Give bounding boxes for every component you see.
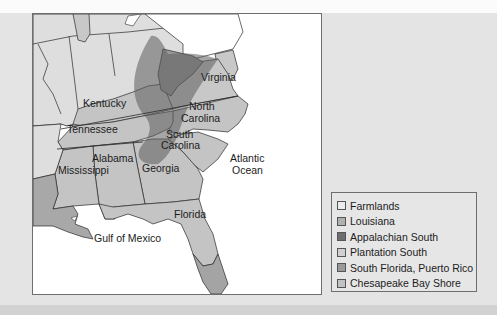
label-tennessee: Tennessee [67, 124, 118, 135]
swatch-icon [337, 263, 346, 272]
label-north-carolina-1: North [189, 101, 215, 112]
swatch-icon [337, 248, 346, 257]
legend-item-south-florida: South Florida, Puerto Rico [337, 260, 476, 276]
legend-label: Farmlands [350, 200, 400, 212]
legend-label: Plantation South [350, 246, 427, 258]
bottom-margin [0, 305, 497, 315]
swatch-icon [337, 279, 346, 288]
legend-label: Louisiana [350, 215, 395, 227]
label-gulf-of-mexico: Gulf of Mexico [94, 233, 161, 244]
label-virginia: Virginia [201, 72, 236, 83]
swatch-icon [337, 232, 346, 241]
legend-label: South Florida, Puerto Rico [350, 262, 473, 274]
label-north-carolina-2: Carolina [181, 113, 220, 124]
map-frame: Virginia Kentucky North Carolina Tenness… [32, 13, 322, 295]
swatch-icon [337, 201, 346, 210]
top-margin [0, 0, 497, 13]
label-georgia: Georgia [142, 163, 179, 174]
swatch-icon [337, 217, 346, 226]
legend-label: Appalachian South [350, 231, 438, 243]
region-map [33, 14, 321, 294]
legend-item-louisiana: Louisiana [337, 214, 476, 230]
label-atlantic: Atlantic [230, 153, 264, 164]
legend-item-chesapeake: Chesapeake Bay Shore [337, 276, 476, 292]
legend-item-farmlands: Farmlands [337, 198, 476, 214]
label-kentucky: Kentucky [83, 98, 126, 109]
label-mississippi: Mississippi [58, 165, 109, 176]
legend-item-plantation-south: Plantation South [337, 245, 476, 261]
label-florida: Florida [174, 209, 206, 220]
label-south-carolina-2: Carolina [161, 140, 200, 151]
label-alabama: Alabama [92, 153, 133, 164]
legend-item-appalachian-south: Appalachian South [337, 229, 476, 245]
legend-label: Chesapeake Bay Shore [350, 277, 461, 289]
label-ocean: Ocean [232, 165, 263, 176]
map-legend: Farmlands Louisiana Appalachian South Pl… [331, 192, 477, 292]
